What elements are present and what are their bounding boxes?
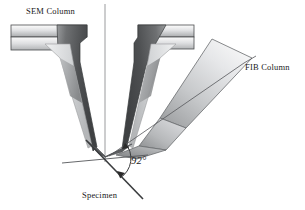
angle-value-label: 92°: [131, 155, 146, 166]
fib-sem-schematic: [0, 0, 305, 210]
sem-column-label: SEM Column: [26, 6, 75, 16]
figure-canvas: SEM Column FIB Column Specimen 92°: [0, 0, 305, 210]
sem-column-left-assembly: [11, 25, 106, 157]
fib-column-label: FIB Column: [245, 62, 290, 72]
specimen-label: Specimen: [82, 190, 117, 200]
fib-column-upper-slab: [160, 39, 252, 128]
